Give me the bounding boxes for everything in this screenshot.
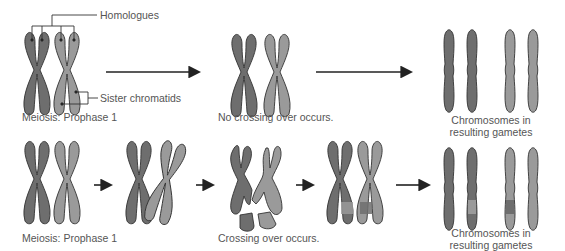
bottom-stage-label: Meiosis: Prophase 1	[22, 232, 117, 244]
top-prophase-homologues	[24, 32, 80, 114]
chiasma-homologues	[126, 139, 188, 225]
top-gamete-chromosomes	[444, 30, 538, 113]
top-stage-label: Meiosis: Prophase 1	[22, 111, 117, 123]
homologues-label: Homologues	[100, 9, 159, 21]
light-homologue	[54, 32, 80, 114]
dark-homologue	[24, 32, 50, 114]
top-no-crossover-homologues	[231, 34, 290, 116]
top-middle-label: No crossing over occurs.	[218, 111, 334, 123]
bottom-prophase-homologues	[24, 141, 80, 223]
top-result-label: Chromosomes in resulting gametes	[430, 114, 552, 138]
sister-chromatids-label: Sister chromatids	[100, 92, 181, 104]
recombined-homologues	[327, 141, 383, 223]
bottom-gamete-chromosomes	[444, 148, 538, 231]
bottom-result-label: Chromosomes in resulting gametes	[430, 227, 552, 251]
breaking-chromatids	[231, 146, 282, 232]
bottom-middle-label: Crossing over occurs.	[218, 232, 320, 244]
